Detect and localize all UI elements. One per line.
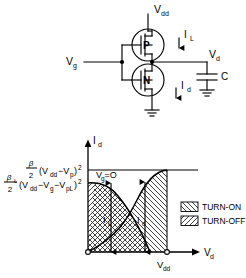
y-level-2-open: (V — [19, 180, 28, 190]
vdd-open-marker — [165, 250, 170, 255]
figure-svg: V dd V g V d P N I L I d C — [0, 0, 246, 278]
output-junction-dot — [150, 60, 154, 64]
capacitor-label: C — [221, 71, 228, 82]
x-tick-vdd-sub: dd — [163, 265, 171, 272]
y-level-1-minus-v: −V — [58, 166, 69, 176]
y-level-1-close: ) — [74, 166, 77, 176]
gate-junction-dot — [120, 60, 124, 64]
y-axis-label-sub: d — [98, 141, 102, 148]
y-level-2-denominator: 2 — [8, 185, 13, 194]
legend-label-turn-on: TURN-ON — [202, 202, 241, 212]
y-level-1-sub-dd: dd — [50, 171, 58, 178]
vd-label-sub: d — [216, 55, 220, 62]
origin-open-marker — [86, 250, 91, 255]
y-level-1-denominator: 2 — [29, 171, 34, 180]
y-level-1-exponent: 2 — [78, 164, 82, 171]
il-curve-label-sub: L — [108, 220, 112, 227]
y-level-2-exponent: 2 — [78, 178, 82, 185]
id-curve-label-main: I — [137, 214, 140, 225]
vg-label-sub: g — [73, 62, 77, 70]
drain-current-label-main: I — [181, 80, 184, 91]
y-axis-label-main: I — [93, 135, 96, 146]
y-level-2-sub-dd: dd — [30, 185, 38, 192]
y-level-2-minus-vpl: −V — [54, 180, 65, 190]
vg-label-main: V — [66, 55, 73, 67]
nmos-type-label: N — [143, 75, 150, 86]
vdd-label-sub: dd — [161, 10, 169, 17]
y-level-1-open: (V — [39, 166, 48, 176]
y-level-2-minus-vg: −V — [38, 180, 49, 190]
id-curve-label-sub: d — [142, 220, 146, 227]
y-level-2-sub-pl: pL — [66, 185, 74, 193]
load-current-label-sub: L — [190, 35, 194, 42]
figure-container: V dd V g V d P N I L I d C — [0, 0, 246, 278]
vdd-label-main: V — [154, 3, 161, 15]
y-level-2-numerator: β — [6, 173, 12, 182]
drain-current-label-sub: d — [187, 86, 191, 93]
legend-label-turn-off: TURN-OFF — [202, 216, 245, 226]
vd-label-main: V — [209, 48, 216, 60]
x-axis-label-sub: d — [210, 253, 214, 260]
pmos-type-label: P — [143, 40, 150, 51]
y-level-1-numerator: β — [28, 159, 34, 168]
vg-zero-annotation-rest: =O — [105, 170, 117, 180]
load-current-label-main: I — [184, 29, 187, 40]
legend-swatch-turn-off — [181, 216, 198, 226]
il-curve-label-main: I — [103, 214, 106, 225]
y-level-2-close: ) — [74, 180, 77, 190]
legend-swatch-turn-on — [181, 202, 198, 212]
